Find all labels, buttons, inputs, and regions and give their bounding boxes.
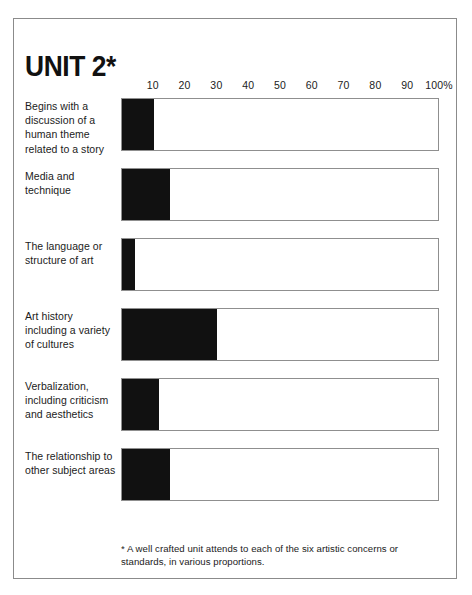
chart-bar xyxy=(122,169,170,220)
chart-bar xyxy=(122,99,154,150)
chart-row: Art history including a variety of cultu… xyxy=(14,308,458,378)
axis-tick-40: 40 xyxy=(242,79,254,91)
chart-row-track xyxy=(121,378,439,431)
chart-row-label: Begins with a discussion of a human them… xyxy=(25,99,117,156)
chart-bar xyxy=(122,379,159,430)
page-title: UNIT 2* xyxy=(25,49,116,83)
chart-rows: Begins with a discussion of a human them… xyxy=(14,98,458,518)
chart-x-axis: 102030405060708090100% xyxy=(14,79,458,97)
chart-row: Media and technique xyxy=(14,168,458,238)
axis-tick-90: 90 xyxy=(401,79,413,91)
chart-bar xyxy=(122,309,217,360)
axis-tick-70: 70 xyxy=(338,79,350,91)
chart-row-label: Art history including a variety of cultu… xyxy=(25,309,117,352)
chart-row: The relationship to other subject areas xyxy=(14,448,458,518)
chart-row: The language or structure of art xyxy=(14,238,458,308)
axis-tick-100pct: 100% xyxy=(425,79,453,91)
chart-row-track xyxy=(121,238,439,291)
chart-row-track xyxy=(121,448,439,501)
chart-bar xyxy=(122,239,135,290)
horizontal-bar-chart: 102030405060708090100% Begins with a dis… xyxy=(14,79,458,524)
axis-tick-10: 10 xyxy=(147,79,159,91)
chart-row-label: Verbalization, including criticism and a… xyxy=(25,379,117,422)
chart-row-track xyxy=(121,308,439,361)
axis-tick-20: 20 xyxy=(179,79,191,91)
chart-bar xyxy=(122,449,170,500)
axis-tick-60: 60 xyxy=(306,79,318,91)
axis-tick-80: 80 xyxy=(369,79,381,91)
chart-row: Verbalization, including criticism and a… xyxy=(14,378,458,448)
chart-footnote: * A well crafted unit attends to each of… xyxy=(121,542,439,569)
chart-row-label: The language or structure of art xyxy=(25,239,117,267)
chart-row-track xyxy=(121,168,439,221)
unit-chart-card: UNIT 2* 102030405060708090100% Begins wi… xyxy=(13,18,457,579)
axis-tick-30: 30 xyxy=(210,79,222,91)
chart-row-label: Media and technique xyxy=(25,169,117,197)
chart-row-track xyxy=(121,98,439,151)
chart-row-label: The relationship to other subject areas xyxy=(25,449,117,477)
chart-row: Begins with a discussion of a human them… xyxy=(14,98,458,168)
axis-tick-50: 50 xyxy=(274,79,286,91)
